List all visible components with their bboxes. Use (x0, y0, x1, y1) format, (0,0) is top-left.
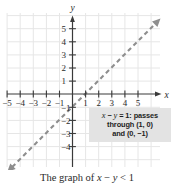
y-tick-label: 3 (62, 50, 67, 60)
coordinate-plane-svg: −5 −4 −3 −2 −1 1 2 3 4 5 5 4 3 2 1 −1 −2… (0, 0, 174, 170)
figure-caption: The graph of x − y < 1 (0, 172, 174, 183)
x-tick-label: −5 (2, 98, 12, 108)
annotation-line-2: through (1, 0) (91, 120, 169, 129)
x-tick-label: −3 (29, 98, 39, 108)
annotation-line-1: x − y = 1: passes (91, 111, 169, 120)
annotation-line-1-rest: = 1: passes (117, 111, 158, 120)
annotation-minus: − (105, 111, 113, 120)
x-tick-label: 5 (136, 98, 141, 108)
y-tick-label: −3 (61, 129, 71, 139)
coordinate-plane: −5 −4 −3 −2 −1 1 2 3 4 5 5 4 3 2 1 −1 −2… (0, 0, 174, 170)
y-tick-label: −2 (61, 116, 71, 126)
x-tick-label: −2 (42, 98, 52, 108)
y-axis-label: y (69, 3, 75, 13)
y-tick-label: −1 (61, 103, 71, 113)
x-tick-label: 3 (110, 98, 115, 108)
y-tick-label: 4 (62, 37, 67, 47)
caption-relation: < 1 (117, 172, 133, 183)
y-axis-tick-labels: 5 4 3 2 1 −1 −2 −3 −4 (61, 24, 71, 152)
graph-figure: −5 −4 −3 −2 −1 1 2 3 4 5 5 4 3 2 1 −1 −2… (0, 0, 174, 194)
x-axis-label: x (163, 90, 169, 100)
y-tick-label: −4 (61, 142, 71, 152)
y-tick-label: 1 (62, 76, 67, 86)
x-tick-label: −4 (15, 98, 25, 108)
equation-annotation: x − y = 1: passes through (1, 0) and (0,… (89, 108, 171, 142)
caption-prefix: The graph of (40, 172, 97, 183)
x-tick-label: 4 (123, 98, 128, 108)
x-tick-label: 1 (83, 98, 88, 108)
y-tick-label: 5 (62, 24, 67, 34)
x-tick-label: 2 (96, 98, 101, 108)
annotation-line-3: and (0, −1) (91, 129, 169, 138)
y-tick-label: 2 (62, 63, 67, 73)
x-axis-tick-labels: −5 −4 −3 −2 −1 1 2 3 4 5 (2, 98, 140, 108)
caption-minus: − (102, 172, 113, 183)
grid-lines (7, 13, 160, 167)
